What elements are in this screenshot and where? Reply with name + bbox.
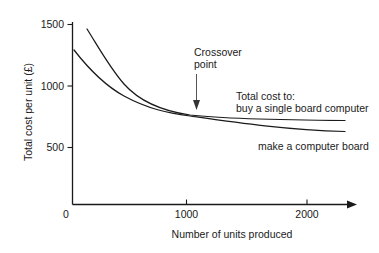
y-tick-label-500: 500 [46,141,64,153]
x-axis-title: Number of units produced [172,228,293,240]
series-make-label: make a computer board [258,140,369,152]
y-tick-label-1500: 1500 [41,18,65,30]
cost-crossover-chart: 1500 1000 500 0 1000 2000 Total cost per… [0,0,379,253]
y-axis-title: Total cost per unit (£) [22,63,34,161]
chart-canvas: 1500 1000 500 0 1000 2000 Total cost per… [0,0,379,253]
y-tick-label-1000: 1000 [41,80,65,92]
series-label-buy: Total cost to: buy a single board comput… [236,90,369,114]
x-axis-ticks: 0 1000 2000 [63,200,319,221]
y-axis-ticks: 1500 1000 500 [41,18,73,153]
x-axis-arrowhead [347,200,357,208]
crossover-label-line2: point [194,58,217,70]
crossover-arrowhead [193,100,200,110]
x-tick-label-0: 0 [63,208,69,220]
crossover-annotation: Crossover point [193,46,242,110]
series-buy-label-line2: buy a single board computer [236,102,369,114]
x-tick-label-2000: 2000 [295,208,319,220]
series-buy-label-line1: Total cost to: [236,90,295,102]
crossover-label-line1: Crossover [194,46,242,58]
x-tick-label-1000: 1000 [175,208,199,220]
